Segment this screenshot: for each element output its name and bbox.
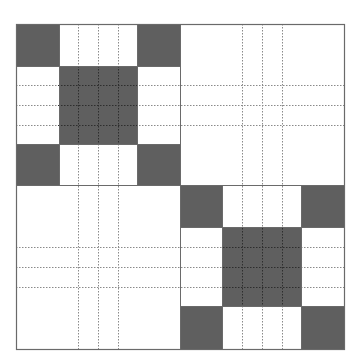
dark-cell — [16, 24, 59, 66]
dark-cell — [301, 185, 344, 227]
dark-cell — [180, 185, 222, 227]
dark-cell — [180, 306, 222, 349]
dark-cell — [222, 227, 301, 306]
dark-cell — [137, 144, 180, 185]
block-matrix-diagram — [0, 0, 362, 364]
dark-cell — [301, 306, 344, 349]
dark-cell — [16, 144, 59, 185]
dark-cell — [137, 24, 180, 66]
